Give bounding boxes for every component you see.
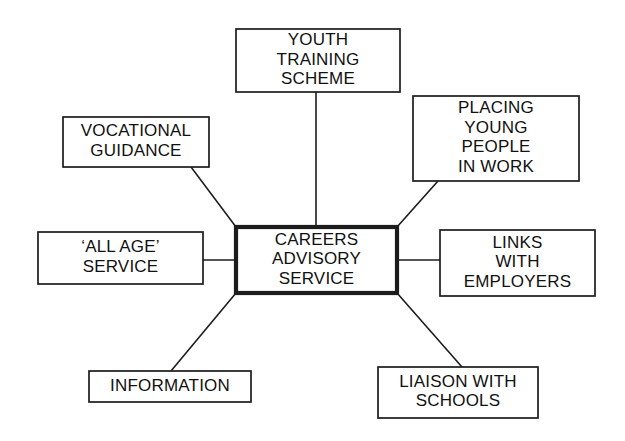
node-label-line: LIAISON WITH bbox=[399, 372, 517, 391]
connector-placing-young-people-in-work bbox=[397, 181, 438, 227]
connector-information bbox=[171, 293, 236, 371]
node-label-youth-training-scheme: YOUTHTRAININGSCHEME bbox=[277, 30, 360, 88]
node-label-line: PEOPLE bbox=[461, 138, 530, 157]
node-label-line: CAREERS bbox=[275, 230, 359, 249]
node-label-vocational-guidance: VOCATIONALGUIDANCE bbox=[81, 122, 191, 161]
node-label-line: IN WORK bbox=[458, 157, 534, 176]
node-label-line: SCHEME bbox=[281, 69, 355, 88]
node-label-line: GUIDANCE bbox=[90, 141, 181, 160]
node-label-all-age-service: ‘ALL AGE’SERVICE bbox=[81, 238, 160, 277]
node-label-line: INFORMATION bbox=[110, 376, 230, 395]
node-links-with-employers[interactable]: LINKSWITHEMPLOYERS bbox=[440, 230, 595, 296]
node-label-liaison-with-schools: LIAISON WITHSCHOOLS bbox=[399, 372, 517, 411]
connector-liaison-with-schools bbox=[397, 293, 462, 367]
node-label-line: ADVISORY bbox=[272, 249, 361, 268]
node-youth-training-scheme[interactable]: YOUTHTRAININGSCHEME bbox=[236, 29, 400, 92]
node-label-line: TRAINING bbox=[277, 50, 360, 69]
node-label-line: ‘ALL AGE’ bbox=[81, 238, 160, 257]
node-label-line: SERVICE bbox=[83, 257, 159, 276]
hub-and-spoke-diagram: YOUTHTRAININGSCHEMEPLACINGYOUNGPEOPLEIN … bbox=[0, 0, 625, 441]
connector-vocational-guidance bbox=[191, 167, 236, 227]
node-vocational-guidance[interactable]: VOCATIONALGUIDANCE bbox=[63, 117, 209, 167]
node-label-line: SCHOOLS bbox=[416, 392, 501, 411]
node-liaison-with-schools[interactable]: LIAISON WITHSCHOOLS bbox=[378, 367, 538, 418]
node-all-age-service[interactable]: ‘ALL AGE’SERVICE bbox=[38, 232, 203, 284]
node-label-line: SERVICE bbox=[279, 269, 355, 288]
node-label-line: YOUNG bbox=[464, 118, 527, 137]
node-label-information: INFORMATION bbox=[110, 376, 230, 395]
node-label-line: EMPLOYERS bbox=[464, 272, 572, 291]
node-information[interactable]: INFORMATION bbox=[89, 371, 251, 402]
diagram-canvas: YOUTHTRAININGSCHEMEPLACINGYOUNGPEOPLEIN … bbox=[0, 0, 625, 441]
node-label-placing-young-people-in-work: PLACINGYOUNGPEOPLEIN WORK bbox=[458, 99, 534, 177]
node-label-line: LINKS bbox=[492, 233, 542, 252]
node-label-line: PLACING bbox=[458, 99, 534, 118]
node-label-line: WITH bbox=[495, 252, 539, 271]
node-placing-young-people-in-work[interactable]: PLACINGYOUNGPEOPLEIN WORK bbox=[413, 96, 579, 181]
node-label-line: YOUTH bbox=[288, 30, 349, 49]
node-label-careers-advisory-service: CAREERSADVISORYSERVICE bbox=[272, 230, 361, 288]
node-careers-advisory-service[interactable]: CAREERSADVISORYSERVICE bbox=[236, 227, 397, 293]
node-label-line: VOCATIONAL bbox=[81, 122, 191, 141]
